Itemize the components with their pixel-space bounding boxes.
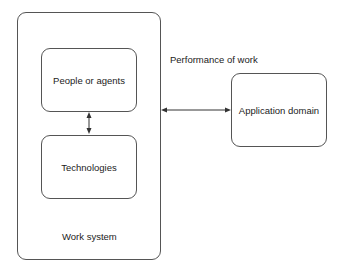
horizontal-double-arrow-icon [161, 108, 231, 113]
connector-arrows [0, 0, 345, 271]
vertical-double-arrow-icon [87, 112, 92, 134]
